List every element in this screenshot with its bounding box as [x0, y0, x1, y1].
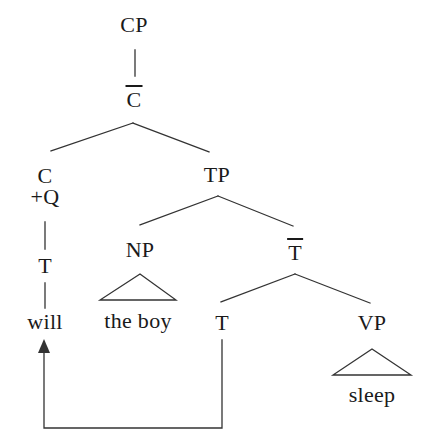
vp-triangle [333, 349, 411, 375]
tree-lines-layer [0, 0, 435, 445]
node-t-trace-label: T [215, 310, 229, 335]
node-t-trace: T [215, 312, 229, 334]
np-triangle [100, 274, 176, 300]
node-t-raised-label: T [38, 253, 52, 278]
node-tp: TP [204, 164, 230, 186]
node-np: NP [126, 239, 155, 261]
edge-tbar-to-t [221, 274, 295, 302]
node-vp-label: VP [358, 310, 387, 335]
node-t-bar-label: T [288, 240, 302, 265]
terminal-the-boy-label: the boy [104, 308, 171, 333]
edge-tp-to-np [140, 196, 218, 225]
edge-cbar-to-tp [133, 123, 209, 152]
node-c-head-label: C [31, 165, 60, 186]
node-t-bar-glyph: T [288, 241, 302, 264]
overbar-t [287, 238, 303, 240]
terminal-will: will [27, 311, 62, 333]
node-cp-label: CP [120, 12, 148, 37]
edge-tbar-to-vp [295, 274, 370, 303]
overbar-c [126, 85, 143, 87]
node-np-label: NP [126, 237, 155, 262]
node-c-bar: C [127, 88, 142, 111]
node-t-bar: T [288, 241, 302, 264]
terminal-will-label: will [27, 309, 62, 334]
node-vp: VP [358, 312, 387, 334]
head-movement-arrow [44, 340, 222, 428]
movement-arrowhead [38, 339, 50, 353]
edge-cbar-to-c [51, 123, 133, 151]
node-tp-label: TP [204, 162, 230, 187]
node-c-bar-glyph: C [127, 88, 142, 111]
node-c-feature-label: +Q [31, 186, 60, 207]
edge-tp-to-tbar [218, 196, 293, 226]
syntax-tree-diagram: CP C C +Q T will TP NP the boy T [0, 0, 435, 445]
node-cp: CP [120, 14, 148, 36]
node-c-head: C +Q [31, 165, 60, 207]
terminal-sleep: sleep [349, 384, 396, 406]
terminal-the-boy: the boy [104, 310, 171, 332]
node-t-raised: T [38, 255, 52, 277]
terminal-sleep-label: sleep [349, 382, 396, 407]
node-c-bar-label: C [127, 87, 142, 112]
